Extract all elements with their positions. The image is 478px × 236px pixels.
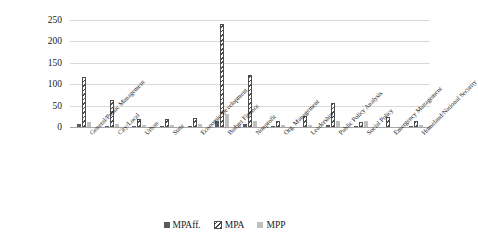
bar-mpaff [271,126,275,127]
bar-mpa [276,121,280,127]
legend-swatch-mpp [257,222,263,228]
bar-mpaff [132,126,136,127]
bar-mpa [248,75,252,127]
bar-group [319,20,347,127]
y-axis: 050100150200250 [0,20,66,127]
bar-mpa [165,119,169,127]
y-tick-label: 50 [53,101,63,110]
y-tick-label: 100 [48,80,62,89]
bar-mpa [193,118,197,127]
bar-mpp [198,124,202,127]
legend-item[interactable]: MPAff. [164,220,201,230]
legend-swatch-mpaff [164,222,170,228]
bar-mpp [281,125,285,127]
bar-mpaff [77,124,81,127]
bar-group [70,20,98,127]
legend-item[interactable]: MPA [214,220,245,230]
bar-mpaff [326,125,330,127]
bar-mpaff [243,124,247,127]
bar-mpa [359,122,363,127]
bar-mpaff [105,126,109,127]
bar-mpaff [188,126,192,127]
bar-group [153,20,181,127]
legend-label: MPP [266,220,285,230]
bar-mpp [253,121,257,127]
y-tick-label: 150 [48,58,62,67]
chart-legend: MPAff.MPAMPP [0,220,449,230]
bar-mpp [170,125,174,127]
bar-mpp [87,122,91,127]
legend-label: MPA [225,220,245,230]
bar-mpp [225,114,229,127]
bar-mpaff [409,126,413,127]
bar-mpa [82,77,86,127]
bar-group [264,20,292,127]
bar-mpaff [354,126,358,127]
bar-mpp [336,121,340,127]
y-tick-label: 0 [57,123,62,132]
bar-group [125,20,153,127]
x-axis-labels: General/Public ManagementCity/LocalUrban… [70,129,430,211]
bar-mpp [115,124,119,127]
bar-group [181,20,209,127]
bar-mpp [364,121,368,127]
bar-mpa [414,121,418,127]
legend-label: MPAff. [173,220,201,230]
legend-item[interactable]: MPP [257,220,285,230]
y-tick-label: 250 [48,16,62,25]
bar-mpaff [160,126,164,127]
legend-swatch-mpa [214,221,222,229]
bar-mpa [137,119,141,127]
y-tick-label: 200 [48,37,62,46]
